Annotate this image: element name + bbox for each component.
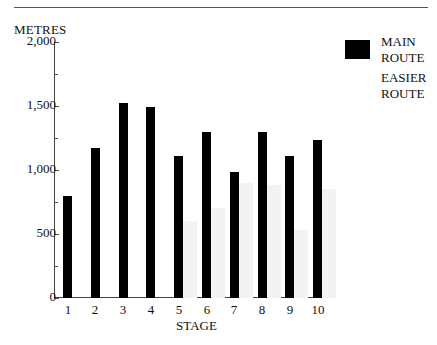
legend-label-main-route: MAIN ROUTE <box>381 34 424 66</box>
y-minor-tick <box>54 266 58 267</box>
top-rule <box>14 7 428 8</box>
bar-main-route <box>63 196 72 298</box>
legend-easier-line1: EASIER <box>381 70 427 86</box>
bar-main-route <box>146 107 155 298</box>
x-tick-label: 9 <box>278 302 302 318</box>
x-tick-label: 4 <box>139 302 163 318</box>
bar-main-route <box>202 132 211 298</box>
bar-easier-route <box>267 185 281 298</box>
bar-easier-route <box>294 230 308 298</box>
x-axis-label: STAGE <box>176 318 217 334</box>
y-tick-label: 1,000 <box>27 161 56 177</box>
bar-easier-route <box>183 221 197 298</box>
x-tick-label: 5 <box>167 302 191 318</box>
x-tick-label: 7 <box>222 302 246 318</box>
legend-label-easier-route: EASIER ROUTE <box>381 70 427 102</box>
x-tick-label: 6 <box>195 302 219 318</box>
bar-main-route <box>258 132 267 298</box>
bar-main-route <box>119 103 128 298</box>
legend-main-line2: ROUTE <box>381 50 424 66</box>
bar-main-route <box>230 172 239 298</box>
y-minor-tick <box>54 74 58 75</box>
x-tick-label: 3 <box>111 302 135 318</box>
y-tick-label: 2,000 <box>27 33 56 49</box>
y-tick-label: 1,500 <box>27 97 56 113</box>
x-tick-label: 1 <box>56 302 80 318</box>
bar-easier-route <box>211 208 225 298</box>
legend-swatch-easier-route <box>345 72 370 91</box>
y-tick-label: 500 <box>37 225 57 241</box>
x-tick-label: 2 <box>83 302 107 318</box>
bar-easier-route <box>322 189 336 298</box>
x-tick-label: 10 <box>306 302 330 318</box>
legend-easier-line2: ROUTE <box>381 86 427 102</box>
bar-main-route <box>174 156 183 298</box>
y-minor-tick <box>54 202 58 203</box>
y-minor-tick <box>54 138 58 139</box>
x-tick-label: 8 <box>250 302 274 318</box>
legend-main-line1: MAIN <box>381 34 424 50</box>
bar-easier-route <box>239 183 253 298</box>
bar-main-route <box>91 148 100 298</box>
legend-swatch-main-route <box>345 40 370 59</box>
bar-main-route <box>313 140 322 298</box>
bar-main-route <box>285 156 294 298</box>
